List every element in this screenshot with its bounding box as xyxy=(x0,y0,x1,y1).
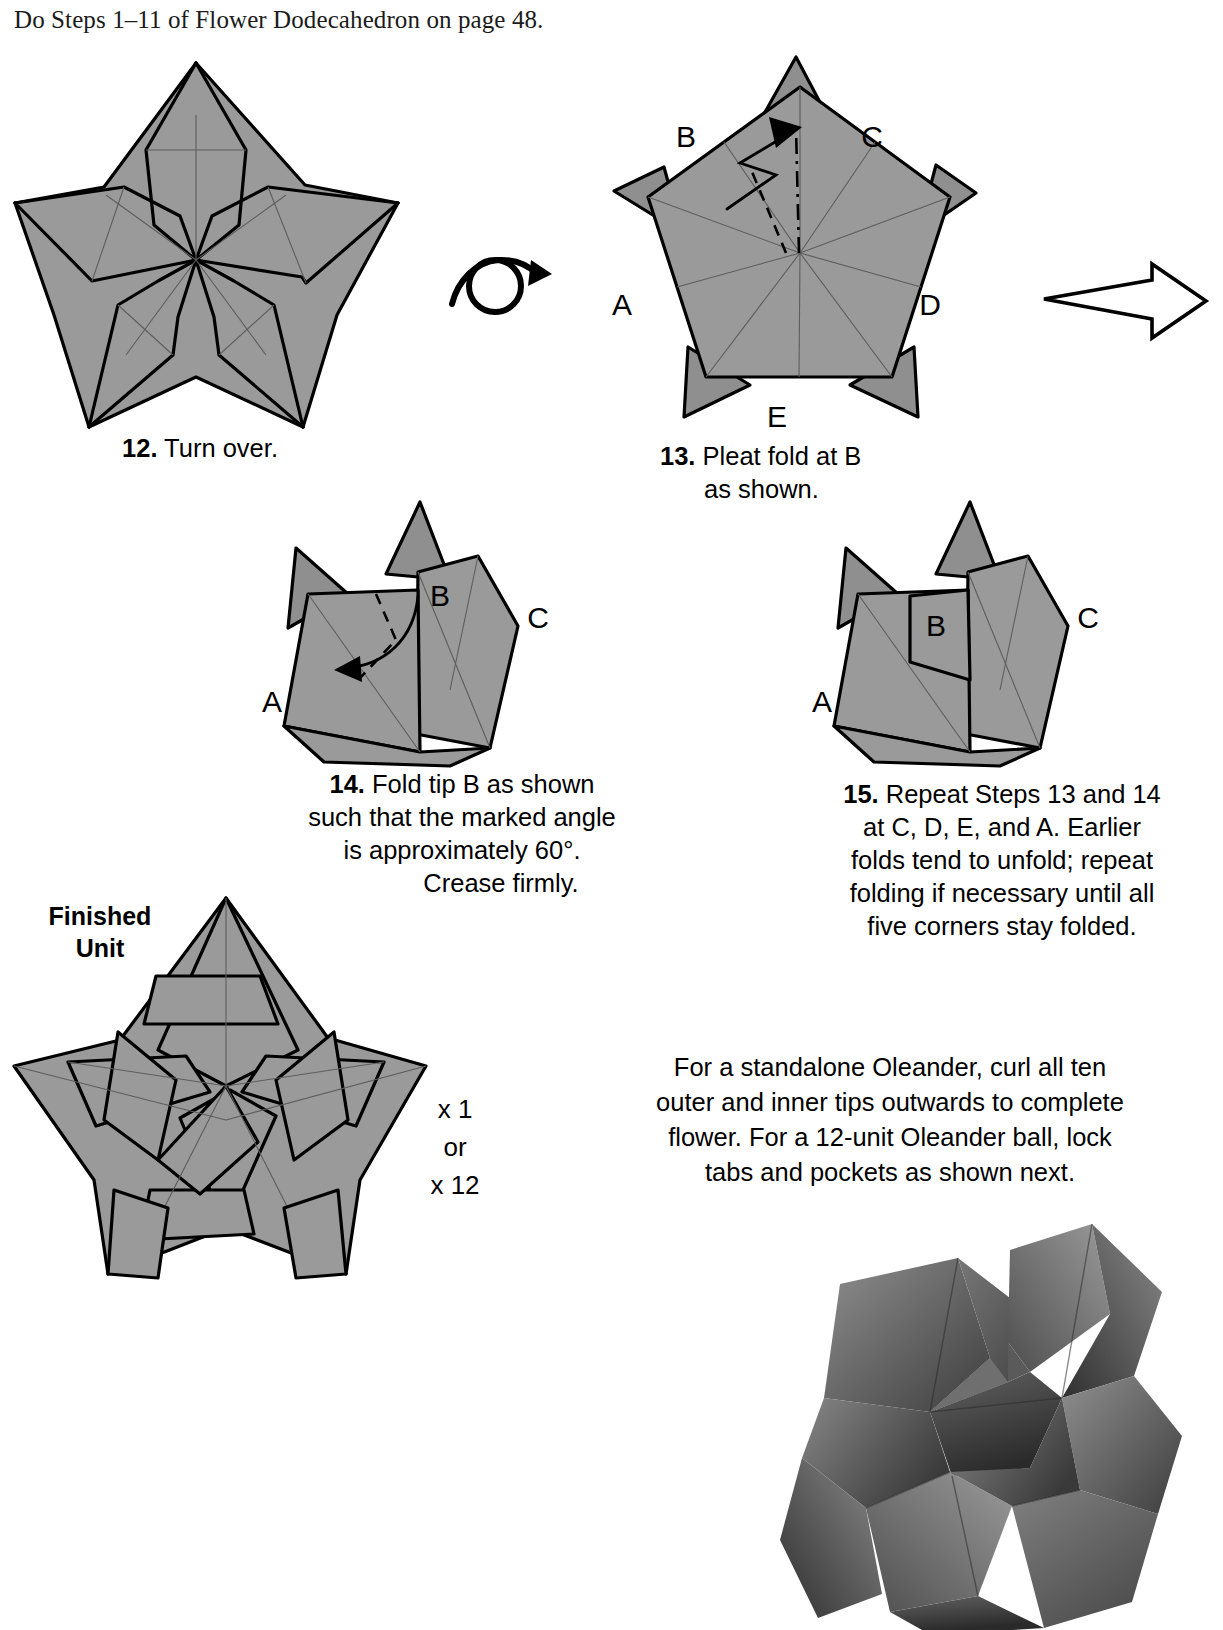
step-14-number: 14. xyxy=(329,770,364,798)
label-B: B xyxy=(430,579,450,612)
label-A: A xyxy=(612,288,632,321)
quantity-line2: or xyxy=(392,1128,518,1166)
finished-model-photo xyxy=(762,1222,1207,1630)
closing-paragraph: For a standalone Oleander, curl all ten … xyxy=(570,1050,1210,1190)
step-14-line2: such that the marked angle xyxy=(242,801,682,834)
step-13-diagram: A B C D E xyxy=(600,55,980,425)
label-C: C xyxy=(861,120,883,153)
star-outline xyxy=(15,63,398,427)
label-E: E xyxy=(767,400,787,433)
page-header-note: Do Steps 1–11 of Flower Dodecahedron on … xyxy=(14,6,543,34)
step-13-line1: Pleat fold at B xyxy=(703,442,862,470)
step-15-diagram: A B C xyxy=(850,490,1180,760)
step-12-text: Turn over. xyxy=(164,434,278,462)
step-15-line3: folds tend to unfold; repeat xyxy=(785,844,1219,877)
finished-unit-diagram xyxy=(8,890,428,1280)
step-14-caption: 14. Fold tip B as shown such that the ma… xyxy=(242,768,682,900)
step-14-diagram: A B C xyxy=(300,490,630,760)
right-face xyxy=(966,556,1068,748)
label-B: B xyxy=(926,609,946,642)
unit-quantity: x 1 or x 12 xyxy=(392,1090,518,1204)
step-15-caption: 15. Repeat Steps 13 and 14 at C, D, E, a… xyxy=(785,778,1219,943)
step-12-number: 12. xyxy=(122,434,157,462)
label-D: D xyxy=(919,288,941,321)
step-14-line1: Fold tip B as shown xyxy=(372,770,595,798)
step-15-line2: at C, D, E, and A. Earlier xyxy=(785,811,1219,844)
step-14-line3: is approximately 60°. xyxy=(242,834,682,867)
label-C: C xyxy=(527,601,549,634)
step-12-caption: 12. Turn over. xyxy=(10,432,390,465)
step-15-line1: Repeat Steps 13 and 14 xyxy=(886,780,1161,808)
hollow-right-arrow-icon xyxy=(1040,262,1210,340)
step-13-line2: as shown. xyxy=(704,475,819,503)
closing-line2: outer and inner tips outwards to complet… xyxy=(570,1085,1210,1120)
quantity-line1: x 1 xyxy=(392,1090,518,1128)
label-A: A xyxy=(262,685,282,718)
photo-paper-facets xyxy=(780,1224,1182,1630)
closing-line3: flower. For a 12-unit Oleander ball, loc… xyxy=(570,1120,1210,1155)
turn-over-icon xyxy=(432,240,562,330)
label-C: C xyxy=(1077,601,1099,634)
quantity-line3: x 12 xyxy=(392,1166,518,1204)
closing-line1: For a standalone Oleander, curl all ten xyxy=(570,1050,1210,1085)
step-15-number: 15. xyxy=(843,780,878,808)
label-B: B xyxy=(676,120,696,153)
step-13-number: 13. xyxy=(660,442,695,470)
step-15-line4: folding if necessary until all xyxy=(785,877,1219,910)
step-12-diagram xyxy=(6,55,406,435)
label-A: A xyxy=(812,685,832,718)
step-15-line5: five corners stay folded. xyxy=(785,910,1219,943)
closing-line4: tabs and pockets as shown next. xyxy=(570,1155,1210,1190)
